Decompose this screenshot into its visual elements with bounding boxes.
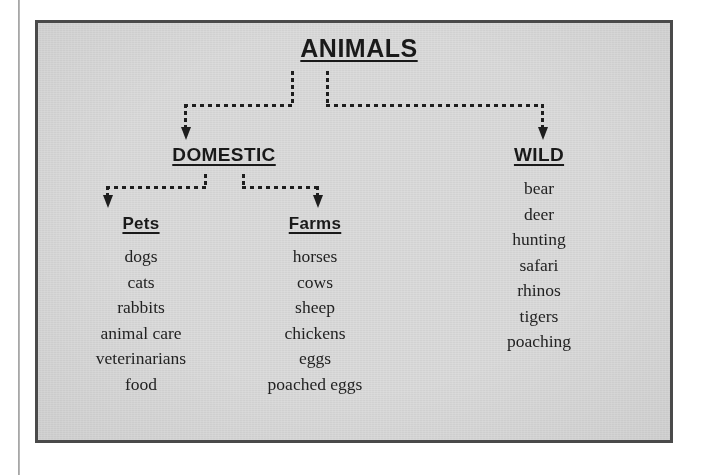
list-item: hunting [507, 227, 571, 253]
list-item: cows [268, 270, 363, 296]
list-item: dogs [96, 244, 186, 270]
list-item: horses [268, 244, 363, 270]
arrowhead-domestic [181, 127, 191, 140]
connector-root-left-stem [291, 71, 294, 106]
item-list-farms: horsescowssheepchickenseggspoached eggs [268, 244, 363, 397]
list-item: veterinarians [96, 346, 186, 372]
connector-domestic-to-pets-horizontal [106, 186, 207, 189]
diagram-box: ANIMALS DOMESTIC WILD Pets [35, 20, 673, 443]
connector-root-to-domestic-horizontal [184, 104, 294, 107]
list-item: tigers [507, 304, 571, 330]
list-item: cats [96, 270, 186, 296]
node-domestic: DOMESTIC [172, 144, 275, 166]
item-list-pets: dogscatsrabbitsanimal careveterinariansf… [96, 244, 186, 397]
arrowhead-farms [313, 195, 323, 208]
list-item: rabbits [96, 295, 186, 321]
node-pets: Pets [122, 214, 159, 234]
connector-root-to-wild-horizontal [326, 104, 543, 107]
connector-domestic-to-farms-horizontal [242, 186, 318, 189]
list-item: rhinos [507, 278, 571, 304]
list-item: poaching [507, 329, 571, 355]
arrowhead-pets [103, 195, 113, 208]
list-item: chickens [268, 321, 363, 347]
connector-root-right-stem [326, 71, 329, 106]
list-item: animal care [96, 321, 186, 347]
list-item: eggs [268, 346, 363, 372]
node-wild: WILD [514, 144, 564, 166]
list-item: deer [507, 202, 571, 228]
list-item: sheep [268, 295, 363, 321]
list-item: poached eggs [268, 372, 363, 398]
list-item: safari [507, 253, 571, 279]
node-animals: ANIMALS [300, 34, 417, 63]
list-item: bear [507, 176, 571, 202]
node-farms: Farms [289, 214, 342, 234]
item-list-wild: beardeerhuntingsafarirhinostigerspoachin… [507, 176, 571, 355]
page-edge-line [18, 0, 20, 475]
list-item: food [96, 372, 186, 398]
arrowhead-wild [538, 127, 548, 140]
scanned-page: ANIMALS DOMESTIC WILD Pets [0, 0, 707, 475]
